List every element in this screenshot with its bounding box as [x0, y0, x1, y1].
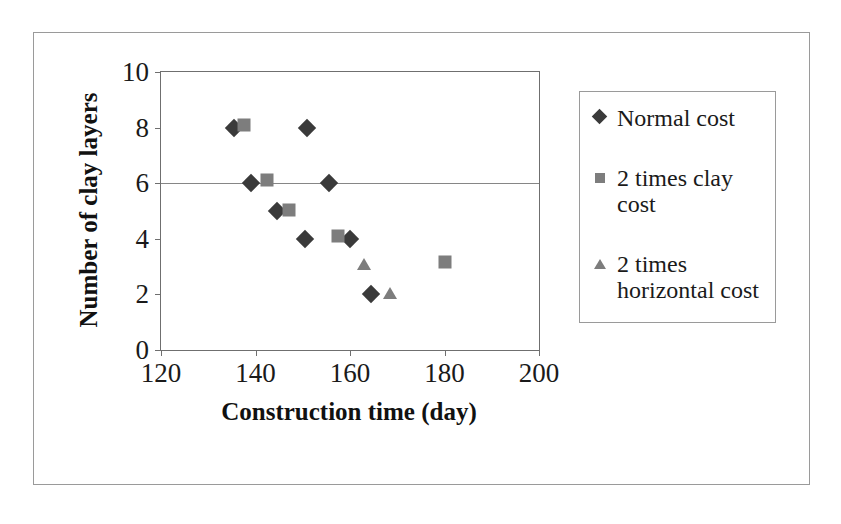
legend-item-label: Normal cost — [617, 106, 735, 132]
x-tick-mark — [256, 350, 257, 356]
data-point-diamond — [242, 174, 260, 192]
legend: Normal cost2 times clay cost2 times hori… — [579, 91, 776, 323]
data-point-square — [332, 230, 345, 243]
y-axis-title: Number of clay layers — [72, 71, 106, 349]
y-tick-label: 4 — [136, 225, 150, 252]
data-point-diamond — [362, 285, 380, 303]
data-point-diamond — [296, 230, 314, 248]
y-tick-mark — [155, 294, 161, 295]
legend-item[interactable]: Normal cost — [592, 106, 765, 132]
legend-item[interactable]: 2 times clay cost — [592, 166, 765, 218]
y-tick-mark — [155, 72, 161, 73]
y-tick-mark — [155, 183, 161, 184]
y-tick-label: 6 — [136, 170, 150, 197]
y-tick-mark — [155, 239, 161, 240]
y-axis-title-text: Number of clay layers — [75, 93, 103, 328]
data-point-square — [261, 174, 274, 187]
x-axis-title: Construction time (day) — [160, 398, 538, 426]
y-tick-label: 2 — [136, 281, 150, 308]
figure-frame: Number of clay layers Construction time … — [33, 32, 810, 485]
legend-item-label: 2 times clay cost — [617, 166, 765, 218]
x-tick-mark — [350, 350, 351, 356]
x-tick-label: 200 — [519, 360, 560, 387]
plot-area: 0246810 120140160180200 — [160, 71, 540, 351]
x-tick-label: 180 — [424, 360, 465, 387]
y-tick-label: 8 — [136, 114, 150, 141]
y-tick-mark — [155, 128, 161, 129]
x-tick-mark — [445, 350, 446, 356]
data-point-square — [438, 256, 451, 269]
legend-diamond-icon — [592, 106, 608, 126]
x-tick-label: 120 — [141, 360, 182, 387]
gridline — [161, 183, 539, 184]
x-tick-mark — [161, 350, 162, 356]
data-point-diamond — [320, 174, 338, 192]
data-point-square — [282, 203, 295, 216]
x-tick-mark — [539, 350, 540, 356]
x-axis-title-text: Construction time (day) — [221, 398, 477, 425]
data-point-square — [237, 118, 250, 131]
x-tick-label: 160 — [330, 360, 371, 387]
legend-item-label: 2 times horizontal cost — [617, 252, 765, 304]
legend-triangle-icon — [592, 252, 608, 272]
data-point-triangle — [357, 258, 371, 270]
x-tick-label: 140 — [235, 360, 276, 387]
data-point-diamond — [298, 118, 316, 136]
data-point-triangle — [383, 287, 397, 299]
legend-item[interactable]: 2 times horizontal cost — [592, 252, 765, 304]
legend-square-icon — [592, 166, 608, 186]
y-tick-label: 10 — [122, 59, 149, 86]
